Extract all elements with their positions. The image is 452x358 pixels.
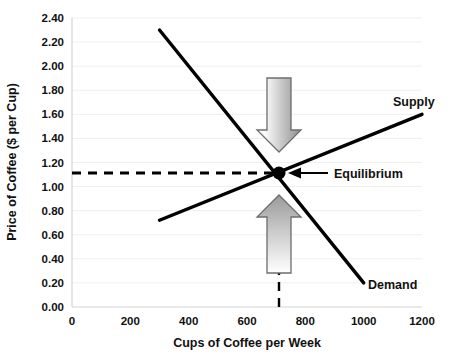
y-tick-1-80: 1.80: [42, 84, 64, 96]
x-tick-1200: 1200: [409, 315, 435, 327]
y-tick-2-40: 2.40: [42, 12, 64, 24]
chart-canvas: 2.40 2.20 2.00 1.80 1.60 1.40 1.20 1.00 …: [0, 0, 452, 358]
demand-label: Demand: [368, 278, 417, 292]
demand-curve: [160, 30, 364, 283]
supply-demand-chart: 2.40 2.20 2.00 1.80 1.60 1.40 1.20 1.00 …: [0, 0, 452, 358]
y-tick-1-00: 1.00: [42, 181, 64, 193]
y-tick-2-20: 2.20: [42, 36, 64, 48]
y-tick-1-20: 1.20: [42, 157, 64, 169]
x-tick-400: 400: [179, 315, 198, 327]
gridlines: [72, 18, 422, 283]
upward-pressure-arrow: [257, 195, 301, 273]
y-tick-1-40: 1.40: [42, 132, 64, 144]
y-tick-1-60: 1.60: [42, 108, 64, 120]
equilibrium-callout-arrow-icon: [288, 168, 328, 179]
equilibrium-point-marker: [273, 167, 286, 180]
downward-pressure-arrow: [257, 78, 301, 152]
x-tick-800: 800: [296, 315, 315, 327]
x-tick-200: 200: [121, 315, 140, 327]
y-axis-tick-labels: 2.40 2.20 2.00 1.80 1.60 1.40 1.20 1.00 …: [42, 12, 64, 313]
x-tick-1000: 1000: [351, 315, 377, 327]
x-tick-0: 0: [69, 315, 75, 327]
x-axis-title: Cups of Coffee per Week: [173, 336, 321, 350]
y-tick-0-40: 0.40: [42, 253, 64, 265]
y-tick-0-60: 0.60: [42, 229, 64, 241]
y-axis-title: Price of Coffee ($ per Cup): [5, 83, 19, 241]
supply-label: Supply: [393, 95, 435, 109]
y-tick-0-80: 0.80: [42, 205, 64, 217]
equilibrium-label: Equilibrium: [334, 167, 403, 181]
x-axis-tick-labels: 0 200 400 600 800 1000 1200: [69, 315, 435, 327]
x-tick-600: 600: [237, 315, 256, 327]
y-tick-0-00: 0.00: [42, 301, 64, 313]
y-tick-0-20: 0.20: [42, 277, 64, 289]
y-tick-2-00: 2.00: [42, 60, 64, 72]
